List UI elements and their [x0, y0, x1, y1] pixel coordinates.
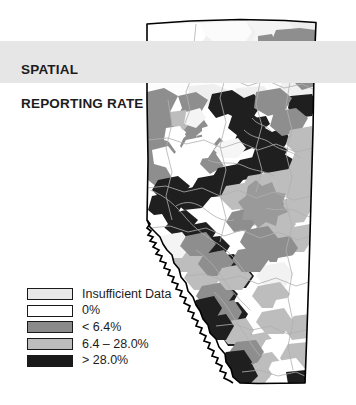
legend-label: > 28.0% [82, 354, 128, 367]
legend-label: 0% [82, 304, 100, 317]
title-line-1: SPATIAL [21, 61, 191, 78]
map-legend: Insufficient Data 0% < 6.4% 6.4 – 28.0% … [27, 286, 197, 369]
legend-swatch-icon [27, 355, 73, 367]
figure-canvas: SPATIAL REPORTING RATE Insufficient Data… [0, 0, 356, 405]
page-title: SPATIAL REPORTING RATE [21, 44, 191, 129]
legend-item-under-6-4: < 6.4% [27, 319, 197, 336]
title-line-2: REPORTING RATE [21, 95, 191, 112]
legend-swatch-icon [27, 321, 73, 333]
legend-label: < 6.4% [82, 321, 121, 334]
legend-swatch-icon [27, 338, 73, 350]
legend-label: Insufficient Data [82, 288, 171, 301]
legend-item-6-4-to-28: 6.4 – 28.0% [27, 336, 197, 353]
legend-swatch-icon [27, 288, 73, 300]
legend-item-insufficient-data: Insufficient Data [27, 286, 197, 303]
legend-label: 6.4 – 28.0% [82, 338, 149, 351]
legend-swatch-icon [27, 305, 73, 317]
legend-item-zero-percent: 0% [27, 303, 197, 320]
legend-item-over-28: > 28.0% [27, 352, 197, 369]
